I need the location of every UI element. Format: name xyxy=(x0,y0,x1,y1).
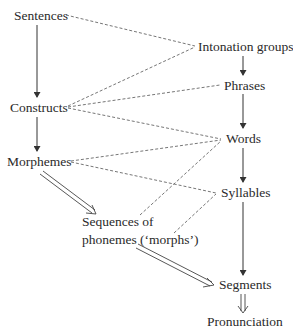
node-sequences-line2: phonemes (‘morphs’) xyxy=(82,232,199,248)
node-constructs: Constructs xyxy=(10,100,68,116)
dashed-constructs-words xyxy=(68,108,221,139)
dashed-morphemes-words xyxy=(71,140,221,161)
dashed-sequences-words xyxy=(140,141,221,215)
dashed-morphemes-syllables xyxy=(71,162,216,193)
double-arrow-sequences-segments xyxy=(136,244,214,287)
node-syllables: Syllables xyxy=(221,185,271,201)
linguistic-levels-diagram: Sentences Constructs Morphemes Sequences… xyxy=(0,0,293,335)
node-phrases: Phrases xyxy=(224,78,265,94)
node-segments: Segments xyxy=(219,277,272,293)
dashed-sequences-syllables xyxy=(174,194,216,233)
dashed-constructs-phrases xyxy=(68,85,220,107)
node-words: Words xyxy=(226,131,261,147)
dashed-constructs-intonation xyxy=(68,47,195,106)
node-pronunciation: Pronunciation xyxy=(207,314,283,330)
dashed-sentences-intonation xyxy=(66,15,195,46)
node-morphemes: Morphemes xyxy=(7,154,72,170)
node-sequences-line1: Sequences of xyxy=(82,214,154,230)
node-sentences: Sentences xyxy=(14,8,68,24)
double-arrow-morphemes-sequences xyxy=(40,171,96,214)
node-intonation-groups: Intonation groups xyxy=(198,39,293,55)
double-arrow-segments-pronunciation xyxy=(238,294,248,313)
